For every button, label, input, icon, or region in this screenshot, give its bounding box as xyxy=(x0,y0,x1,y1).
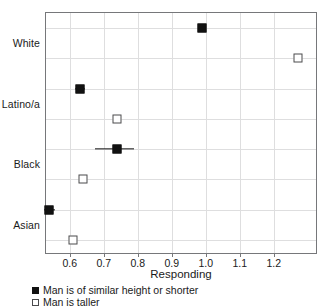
legend-item-label: Man is taller xyxy=(43,296,100,308)
chart-container: 0.60.70.80.91.01.11.2WhiteLatino/aBlackA… xyxy=(0,0,327,308)
data-point-marker[interactable] xyxy=(69,235,78,244)
data-point-marker[interactable] xyxy=(293,54,302,63)
gridline-horizontal xyxy=(46,89,316,90)
gridline-horizontal xyxy=(46,119,316,120)
data-point-marker[interactable] xyxy=(113,114,122,123)
gridline-horizontal xyxy=(46,28,316,29)
legend-item[interactable]: Man is taller xyxy=(32,296,198,308)
gridline-vertical xyxy=(70,13,71,253)
x-axis-title: Responding xyxy=(45,268,317,280)
y-axis-category-label: Black xyxy=(14,158,40,170)
gridline-vertical xyxy=(206,13,207,253)
gridline-vertical xyxy=(104,13,105,253)
gridline-horizontal xyxy=(46,149,316,150)
gridline-horizontal xyxy=(46,58,316,59)
gridline-horizontal xyxy=(46,210,316,211)
filled-square-icon xyxy=(32,287,39,294)
gridline-vertical xyxy=(274,13,275,253)
data-point-marker[interactable] xyxy=(79,175,88,184)
data-point-marker[interactable] xyxy=(198,24,207,33)
gridline-horizontal xyxy=(46,240,316,241)
gridline-vertical xyxy=(138,13,139,253)
plot-area: 0.60.70.80.91.01.11.2WhiteLatino/aBlackA… xyxy=(45,12,317,254)
data-point-marker[interactable] xyxy=(45,205,54,214)
y-axis-category-label: White xyxy=(13,37,40,49)
data-point-marker[interactable] xyxy=(76,84,85,93)
open-square-icon xyxy=(32,299,39,306)
y-axis-category-label: Asian xyxy=(13,219,40,231)
chart-legend: Man is of similar height or shorterMan i… xyxy=(32,284,198,308)
y-axis-category-label: Latino/a xyxy=(2,98,40,110)
legend-item-label: Man is of similar height or shorter xyxy=(43,284,198,296)
gridline-vertical xyxy=(240,13,241,253)
gridline-vertical xyxy=(172,13,173,253)
legend-item[interactable]: Man is of similar height or shorter xyxy=(32,284,198,296)
data-point-marker[interactable] xyxy=(113,145,122,154)
